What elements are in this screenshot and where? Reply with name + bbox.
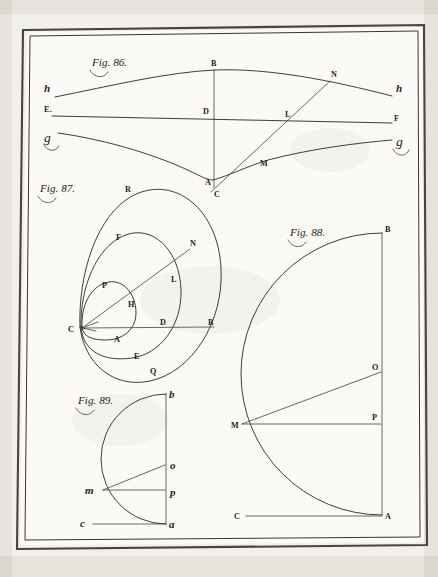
- fig-86-caption: Fig. 86.: [91, 56, 127, 68]
- fig89-label-b: b: [169, 388, 175, 400]
- fig87-label-P: P: [102, 281, 107, 290]
- fig86-label-L: L: [285, 110, 291, 119]
- fig86-label-g-left: g: [44, 130, 51, 145]
- fig87-label-B: B: [208, 318, 214, 327]
- engraved-plate: Fig. 86. h E. g B D A C M L N F h g: [0, 0, 438, 577]
- fig86-label-N: N: [331, 70, 337, 79]
- fig89-label-p: p: [169, 486, 176, 498]
- fig-89-caption: Fig. 89.: [77, 394, 113, 406]
- fig89-label-m: m: [85, 484, 94, 496]
- fig87-label-N: N: [190, 239, 196, 248]
- fig87-label-Q: Q: [150, 367, 157, 376]
- fig86-label-C: C: [214, 190, 220, 199]
- fig87-label-E: E: [134, 352, 140, 361]
- fig86-label-h-right: h: [396, 82, 402, 94]
- paper-edge-shade-top: [0, 0, 438, 14]
- fig88-label-O: O: [372, 363, 379, 372]
- fig87-label-A: A: [114, 335, 120, 344]
- fig86-label-D: D: [203, 107, 209, 116]
- fig89-label-a: a: [169, 518, 175, 530]
- fig86-label-F: F: [394, 114, 399, 123]
- fig88-label-B: B: [385, 225, 391, 234]
- fig87-label-F: F: [116, 233, 121, 242]
- fig87-label-H: H: [128, 300, 135, 309]
- fig-88-caption: Fig. 88.: [289, 226, 325, 238]
- paper-edge-shade-left: [0, 0, 12, 577]
- fig86-label-A: A: [205, 178, 211, 187]
- fig87-label-R: R: [125, 185, 131, 194]
- fig86-label-M: M: [260, 159, 268, 168]
- fig88-label-C: C: [234, 512, 240, 521]
- fig86-label-h-left: h: [44, 82, 50, 94]
- fig86-label-B: B: [211, 59, 217, 68]
- fig87-label-D: D: [160, 318, 166, 327]
- fig-87-caption: Fig. 87.: [39, 182, 75, 194]
- fig88-label-A: A: [385, 512, 391, 521]
- fig89-label-o: o: [170, 459, 176, 471]
- fig88-label-P: P: [372, 413, 377, 422]
- plate-canvas: Fig. 86. h E. g B D A C M L N F h g: [0, 0, 438, 577]
- fig86-label-E: E.: [44, 105, 52, 114]
- fig87-label-L: L: [171, 275, 177, 284]
- fig88-label-M: M: [231, 421, 239, 430]
- fig86-label-g-right: g: [396, 134, 403, 149]
- fig87-label-C: C: [68, 325, 74, 334]
- paper-edge-shade-bottom: [0, 556, 438, 577]
- fig89-label-c: c: [80, 517, 85, 529]
